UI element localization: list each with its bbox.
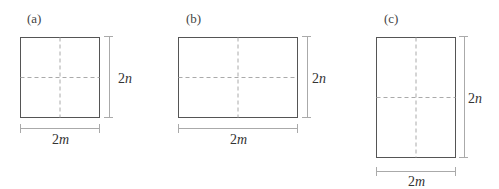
figure-c [377, 36, 469, 176]
height-label-a: 2n [118, 72, 132, 86]
figure-label-a: (a) [27, 12, 41, 25]
figure-b [179, 36, 312, 133]
dimension-height-c [459, 36, 468, 158]
height-label-c: 2n [468, 92, 482, 106]
figure-label-b: (b) [186, 12, 201, 25]
width-label-a: 2m [52, 133, 69, 147]
width-label-c: 2m [408, 175, 425, 189]
dimension-height-b [302, 36, 311, 118]
width-label-b: 2m [230, 133, 247, 147]
figure-a [21, 36, 114, 133]
figure-canvas [0, 0, 499, 189]
figure-label-c: (c) [384, 12, 398, 25]
rectangle-a [21, 38, 100, 118]
dimension-height-a [104, 36, 113, 118]
height-label-b: 2n [312, 72, 326, 86]
